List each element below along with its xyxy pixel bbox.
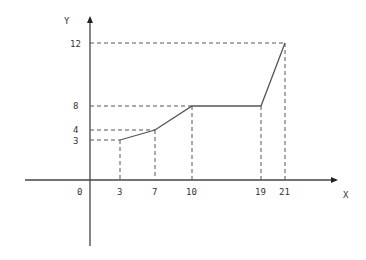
origin-label: 0 (77, 187, 82, 197)
x-tick-7: 7 (152, 187, 157, 197)
x-axis-label: X (343, 190, 349, 200)
y-axis-label: Y (64, 16, 70, 26)
x-tick-10: 10 (186, 187, 197, 197)
piecewise-linear-graph: Y X 0 3 7 10 19 21 3 4 8 12 (0, 0, 366, 260)
x-tick-19: 19 (255, 187, 266, 197)
x-tick-3: 3 (117, 187, 122, 197)
y-tick-3: 3 (73, 136, 78, 146)
guide-lines (90, 43, 285, 180)
x-axis-arrow-icon (331, 177, 338, 183)
data-line (120, 43, 285, 140)
axes (25, 22, 333, 246)
y-tick-12: 12 (70, 39, 81, 49)
y-tick-8: 8 (73, 101, 78, 111)
x-tick-21: 21 (279, 187, 290, 197)
y-axis-arrow-icon (87, 16, 93, 23)
y-tick-4: 4 (73, 125, 78, 135)
